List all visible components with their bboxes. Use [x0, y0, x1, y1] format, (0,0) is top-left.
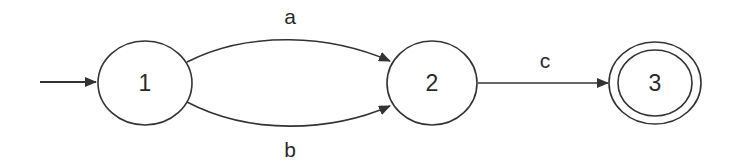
transition-b-edge: [187, 102, 390, 126]
transition-a-label: a: [284, 5, 296, 28]
state-1-label: 1: [139, 70, 152, 96]
state-3-label: 3: [649, 70, 662, 96]
transition-b-label: b: [284, 138, 296, 161]
transition-a-edge: [187, 40, 390, 62]
automaton-diagram: 1 a b 2 c 3: [0, 0, 736, 168]
state-1: 1: [98, 41, 192, 125]
state-2: 2: [387, 41, 477, 125]
state-3-accepting: 3: [609, 42, 701, 124]
state-2-label: 2: [426, 70, 439, 96]
transition-c-label: c: [540, 49, 551, 72]
